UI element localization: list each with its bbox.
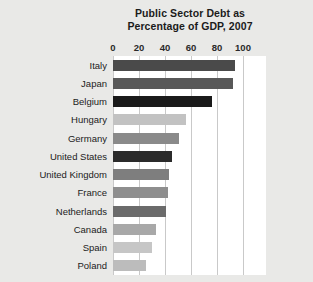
category-label: United States [50, 151, 107, 162]
chart-title: Public Sector Debt as Percentage of GDP,… [100, 7, 280, 33]
category-label: Poland [77, 260, 107, 271]
plot-area [113, 56, 266, 275]
bar [113, 187, 168, 198]
category-label: Italy [90, 60, 107, 71]
bar [113, 224, 156, 235]
bar [113, 169, 169, 180]
x-tick-label: 20 [134, 42, 145, 53]
category-label: Hungary [71, 114, 107, 125]
category-label: Spain [83, 242, 107, 253]
bar [113, 96, 212, 107]
category-label: France [77, 187, 107, 198]
chart-title-line-1: Public Sector Debt as [100, 7, 280, 20]
chart-figure: Public Sector Debt as Percentage of GDP,… [0, 0, 313, 282]
bar [113, 242, 152, 253]
category-label: Netherlands [56, 206, 107, 217]
bar [113, 206, 166, 217]
category-label: Germany [68, 133, 107, 144]
category-label: Japan [81, 78, 107, 89]
bar [113, 151, 172, 162]
bar [113, 133, 179, 144]
bar [113, 260, 146, 271]
category-label: United Kingdom [39, 169, 107, 180]
x-axis-tick-labels: 020406080100 [0, 42, 313, 55]
bar [113, 60, 235, 71]
x-tick-label: 40 [160, 42, 171, 53]
x-tick-label: 60 [186, 42, 197, 53]
y-axis-category-labels: ItalyJapanBelgiumHungaryGermanyUnited St… [0, 56, 110, 275]
bar-series [113, 56, 266, 275]
category-label: Canada [74, 224, 107, 235]
chart-title-line-2: Percentage of GDP, 2007 [100, 20, 280, 33]
x-tick-label: 80 [212, 42, 223, 53]
x-tick-label: 0 [110, 42, 115, 53]
category-label: Belgium [73, 96, 107, 107]
bar [113, 78, 233, 89]
bar [113, 114, 186, 125]
x-tick-label: 100 [235, 42, 251, 53]
